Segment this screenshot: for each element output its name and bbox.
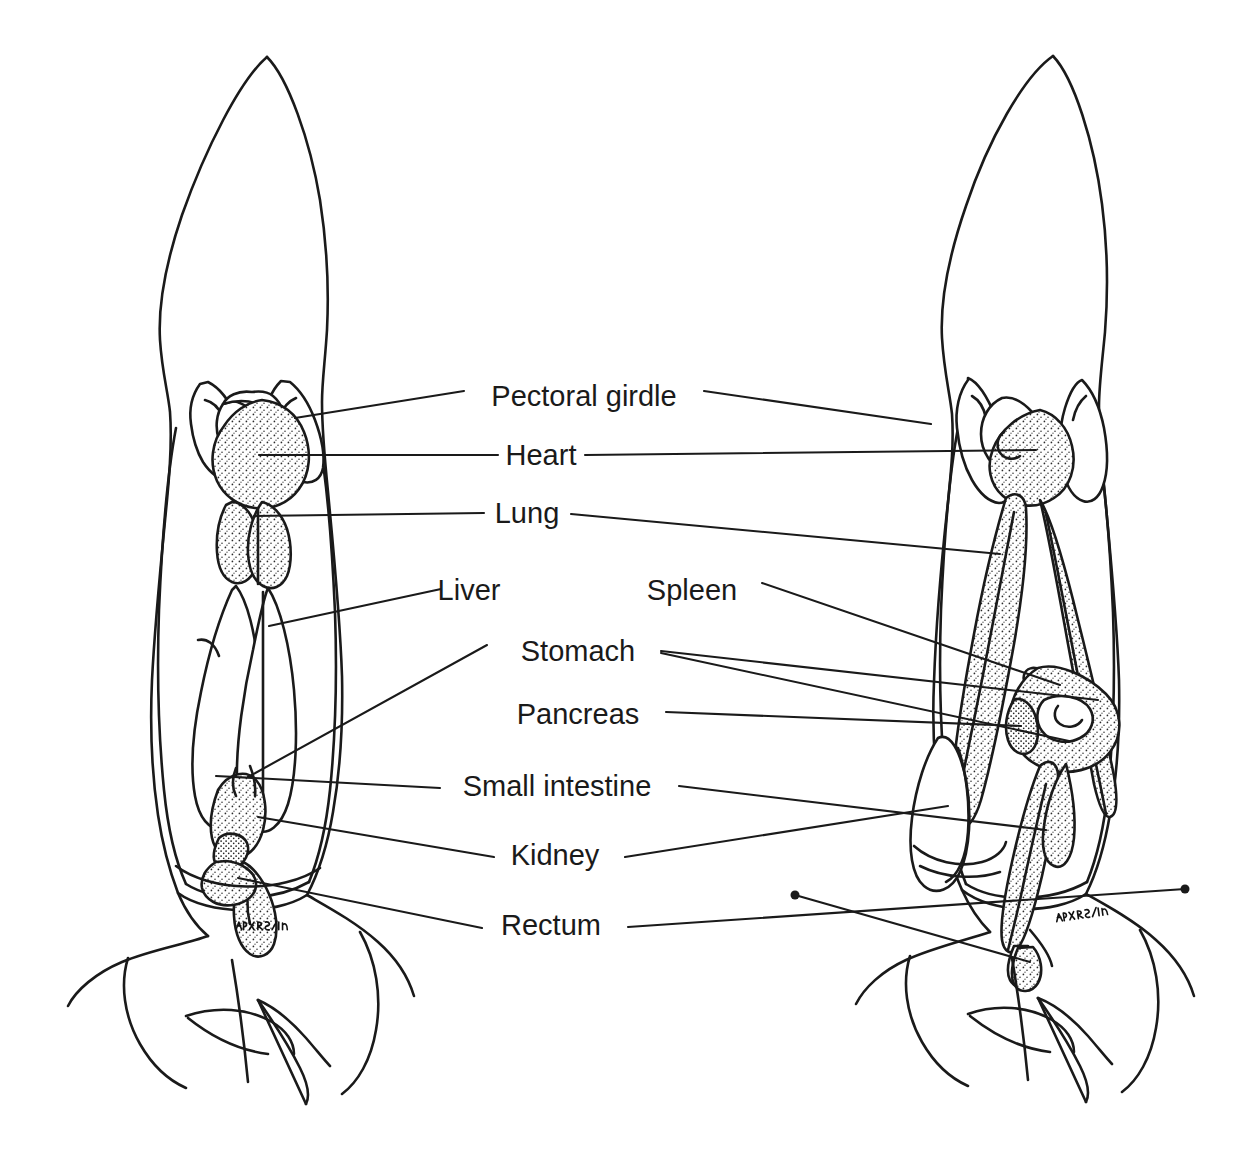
leader-dot-right (1181, 885, 1190, 894)
label-pectoral-girdle: Pectoral girdle (491, 382, 676, 411)
label-rectum: Rectum (501, 911, 601, 940)
label-pancreas: Pancreas (517, 700, 640, 729)
label-kidney: Kidney (511, 841, 600, 870)
label-stomach: Stomach (521, 637, 635, 666)
signature-right (1056, 906, 1108, 922)
leader-small-intestine-right (679, 786, 1046, 830)
figure-canvas: Pectoral girdle Heart Lung Liver Spleen … (0, 0, 1247, 1171)
leader-pectoral-girdle-right (704, 391, 931, 424)
leader-kidney-left (258, 817, 494, 857)
signature-left (236, 921, 287, 930)
leader-lung-right (571, 514, 1000, 554)
label-small-intestine: Small intestine (463, 772, 652, 801)
right-lungs (951, 494, 1116, 827)
label-liver: Liver (438, 576, 501, 605)
anatomical-line-art (0, 0, 1247, 1171)
label-spleen: Spleen (647, 576, 737, 605)
label-lung: Lung (495, 499, 560, 528)
leader-pectoral-girdle-left (295, 391, 464, 418)
leader-lung-left (254, 513, 484, 516)
leader-dot-left (791, 891, 800, 900)
leader-kidney-right (625, 806, 948, 857)
leader-liver-left (269, 589, 441, 626)
label-heart: Heart (506, 441, 577, 470)
